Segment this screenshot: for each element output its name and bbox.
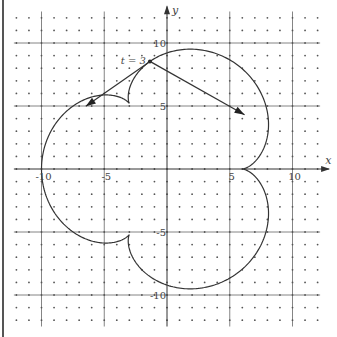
grid-dot: [191, 256, 193, 258]
grid-dot: [28, 30, 30, 32]
grid-dot: [116, 17, 118, 19]
grid-dot: [16, 219, 18, 221]
grid-dot: [28, 269, 30, 271]
grid-dot: [267, 181, 269, 183]
grid-dot: [254, 319, 256, 321]
y-axis-arrow-icon: [164, 5, 170, 14]
grid-dot: [128, 231, 130, 233]
grid-dot: [154, 80, 156, 82]
grid-dot: [191, 156, 193, 158]
grid-dot: [53, 143, 55, 145]
grid-dot: [41, 231, 43, 233]
grid-dot: [204, 294, 206, 296]
grid-dot: [128, 219, 130, 221]
grid-dot: [16, 193, 18, 195]
grid-dot: [154, 67, 156, 69]
grid-dot: [279, 130, 281, 132]
grid-dot: [254, 156, 256, 158]
grid-dot: [179, 30, 181, 32]
grid-dot: [179, 256, 181, 258]
grid-dot: [191, 231, 193, 233]
grid-dot: [267, 319, 269, 321]
grid-dot: [103, 244, 105, 246]
grid-dot: [128, 30, 130, 32]
grid-dot: [304, 307, 306, 309]
grid-dot: [103, 17, 105, 19]
grid-dot: [78, 17, 80, 19]
grid-dot: [304, 219, 306, 221]
grid-dot: [216, 55, 218, 57]
grid-dot: [241, 206, 243, 208]
grid-dot: [241, 105, 243, 107]
grid-dot: [204, 193, 206, 195]
grid-dot: [204, 30, 206, 32]
grid-dot: [116, 219, 118, 221]
grid-dot: [191, 219, 193, 221]
grid-dot: [216, 80, 218, 82]
grid-dot: [16, 55, 18, 57]
grid-dot: [279, 206, 281, 208]
grid-dot: [317, 294, 319, 296]
grid-dot: [41, 219, 43, 221]
grid-dot: [66, 193, 68, 195]
grid-dot: [216, 156, 218, 158]
grid-dot: [216, 193, 218, 195]
y-axis-label: y: [171, 4, 179, 17]
grid-dot: [317, 282, 319, 284]
grid-dot: [141, 143, 143, 145]
grid-dot: [78, 118, 80, 120]
grid-dot: [41, 67, 43, 69]
grid-dot: [128, 282, 130, 284]
grid-dot: [216, 282, 218, 284]
grid-dot: [53, 206, 55, 208]
grid-dot: [78, 30, 80, 32]
grid-dot: [279, 219, 281, 221]
grid-dot: [292, 55, 294, 57]
grid-dot: [78, 269, 80, 271]
grid-dot: [204, 206, 206, 208]
labels: xy-10-5510105-5-10t = 3: [35, 4, 332, 301]
grid-dot: [204, 256, 206, 258]
grid-dot: [204, 67, 206, 69]
grid-dot: [53, 105, 55, 107]
grid-dot: [204, 55, 206, 57]
grid-dot: [128, 105, 130, 107]
grid-dot: [241, 256, 243, 258]
grid-dot: [103, 130, 105, 132]
grid-dot: [179, 118, 181, 120]
grid-dot: [204, 269, 206, 271]
grid-dot: [191, 244, 193, 246]
grid-dot: [154, 282, 156, 284]
grid-dot: [179, 294, 181, 296]
grid-dot: [279, 307, 281, 309]
grid-dot: [304, 156, 306, 158]
grid-dot: [28, 307, 30, 309]
grid-dot: [229, 219, 231, 221]
grid-dot: [141, 105, 143, 107]
grid-dot: [141, 93, 143, 95]
grid-dot: [304, 17, 306, 19]
grid-dot: [191, 30, 193, 32]
grid-dot: [216, 219, 218, 221]
grid-dot: [179, 55, 181, 57]
grid-dot: [179, 231, 181, 233]
grid-dot: [267, 307, 269, 309]
grid-dot: [116, 282, 118, 284]
grid-dot: [103, 67, 105, 69]
grid-dot: [292, 244, 294, 246]
grid-dot: [317, 118, 319, 120]
grid-dot: [304, 294, 306, 296]
grid-dot: [16, 130, 18, 132]
grid-dot: [191, 93, 193, 95]
grid-dot: [154, 231, 156, 233]
grid-dot: [78, 42, 80, 44]
grid-dot: [292, 206, 294, 208]
grid-dot: [28, 206, 30, 208]
grid-dot: [66, 319, 68, 321]
grid-dot: [66, 181, 68, 183]
grid-dot: [304, 193, 306, 195]
grid-dot: [204, 219, 206, 221]
grid-dot: [16, 17, 18, 19]
grid-dot: [216, 17, 218, 19]
grid-dot: [279, 80, 281, 82]
